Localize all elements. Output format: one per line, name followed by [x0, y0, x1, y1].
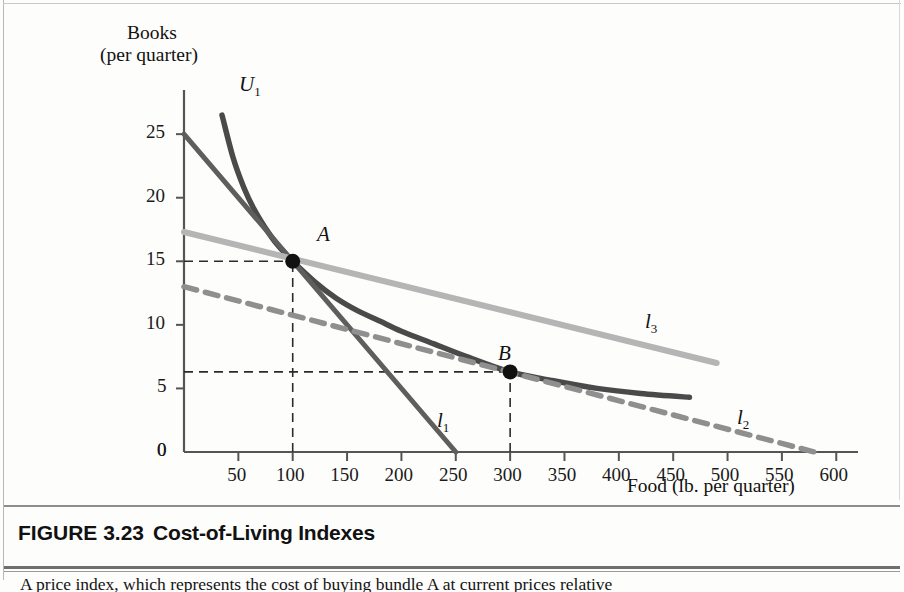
figure-title: Cost-of-Living Indexes	[153, 521, 375, 544]
caption-rule-top	[4, 505, 900, 507]
curve-label-u1-text: U	[239, 72, 254, 96]
y-axis-tick-label-5: 5	[157, 375, 167, 397]
y-axis-tick-label-15: 15	[146, 248, 165, 270]
caption-rule-bottom-hairline	[4, 571, 900, 572]
x-axis-tick-label-400: 400	[602, 464, 631, 486]
curve-label-l1-sub: 1	[443, 420, 450, 435]
x-axis-tick-label-100: 100	[276, 464, 305, 486]
curve-label-l3: l3	[645, 309, 657, 337]
figure-page: Books (per quarter) Food (lb. per quarte…	[0, 0, 904, 592]
x-axis-tick-label-600: 600	[819, 464, 848, 486]
x-axis-tick-label-500: 500	[711, 464, 740, 486]
curve-label-l2: l2	[737, 405, 749, 433]
curve-label-l1: l1	[437, 408, 449, 436]
data-point-a	[285, 254, 300, 269]
point-label-b: B	[498, 341, 511, 366]
y-axis-tick-label-20: 20	[146, 185, 165, 207]
y-axis-title-line2: (per quarter)	[100, 44, 198, 66]
y-axis-tick-label-10: 10	[146, 312, 165, 334]
chart-plot-area: Books (per quarter) Food (lb. per quarte…	[0, 0, 904, 500]
chart-svg	[0, 0, 904, 500]
curve-label-l2-sub: 2	[743, 417, 750, 432]
y-axis-tick-label-25: 25	[146, 121, 165, 143]
x-axis-tick-label-350: 350	[548, 464, 577, 486]
axis-origin-label: 0	[157, 439, 167, 461]
x-axis-tick-label-450: 450	[656, 464, 685, 486]
curve-label-u1-sub: 1	[254, 84, 261, 99]
x-axis-tick-label-300: 300	[493, 464, 522, 486]
x-axis-tick-label-250: 250	[439, 464, 468, 486]
series-l3	[184, 232, 717, 363]
figure-body-text: A price index, which represents the cost…	[20, 574, 890, 592]
x-axis-tick-label-150: 150	[330, 464, 359, 486]
figure-caption: FIGURE 3.23Cost-of-Living Indexes	[18, 521, 375, 545]
x-axis-tick-label-200: 200	[385, 464, 414, 486]
figure-number: FIGURE 3.23	[18, 521, 144, 544]
x-axis-tick-label-50: 50	[227, 464, 246, 486]
curve-label-l3-sub: 3	[651, 321, 658, 336]
curve-label-u1: U1	[239, 72, 261, 100]
caption-rule-bottom	[4, 566, 900, 569]
series-l1	[184, 134, 456, 452]
data-point-b	[503, 364, 518, 379]
y-axis-title-line1: Books	[127, 22, 177, 44]
x-axis-tick-label-550: 550	[765, 464, 794, 486]
point-label-a: A	[317, 222, 330, 247]
